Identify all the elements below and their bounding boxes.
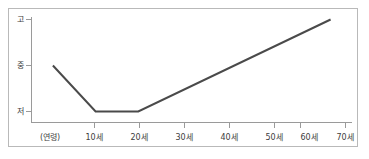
x-axis-label-60: 60세 — [300, 133, 317, 142]
x-axis-label-20: 20세 — [130, 133, 147, 142]
x-axis-label-30: 30세 — [175, 133, 192, 142]
y-axis-label-mid: 중 — [12, 61, 28, 70]
x-axis-label-70: 70세 — [336, 133, 353, 142]
x-axis-label-40: 40세 — [220, 133, 237, 142]
data-series-line — [53, 20, 331, 112]
x-axis-origin-label: (연령) — [40, 133, 60, 142]
x-axis-label-10: 10세 — [85, 133, 102, 142]
y-axis-label-high: 고 — [12, 15, 28, 24]
x-axis-label-50: 50세 — [265, 133, 282, 142]
y-axis-label-low: 저 — [12, 107, 28, 116]
chart-figure: 고 중 저 (연령) 10세 20세 30세 40세 50세 60세 70세 — [0, 0, 369, 159]
